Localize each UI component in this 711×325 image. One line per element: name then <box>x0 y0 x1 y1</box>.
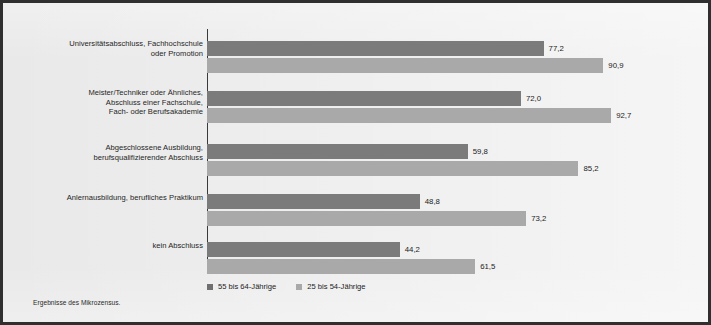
category-label-3: Anlernausbildung, berufliches Praktikum <box>13 193 203 203</box>
bar-series-55-64-cat-1 <box>207 91 521 106</box>
bar-series-55-64-cat-4 <box>207 242 400 257</box>
category-label-line: Fach- oder Berufsakademie <box>13 107 203 117</box>
bar-value-label: 72,0 <box>526 94 541 104</box>
bar-series-25-54-cat-3 <box>207 211 526 226</box>
bar-series-55-64-cat-2 <box>207 144 468 159</box>
bar-value-label: 90,9 <box>608 61 623 71</box>
bar-value-label: 77,2 <box>549 44 564 54</box>
bar-series-25-54-cat-1 <box>207 108 611 123</box>
category-label-line: Abschluss einer Fachschule, <box>13 98 203 108</box>
bar-series-25-54-cat-2 <box>207 161 578 176</box>
legend-label: 55 bis 64-Jährige <box>218 282 276 291</box>
legend-swatch-icon <box>207 284 213 290</box>
category-label-4: kein Abschluss <box>13 241 203 251</box>
bar-series-25-54-cat-0 <box>207 58 603 73</box>
chart-figure: Universitätsabschluss, Fachhochschule od… <box>0 0 711 325</box>
bar-series-25-54-cat-4 <box>207 259 475 274</box>
category-label-2: Abgeschlossene Ausbildung, berufsqualifi… <box>13 143 203 162</box>
bar-value-label: 44,2 <box>405 245 420 255</box>
source-note: Ergebnisse des Mikrozensus. <box>33 299 120 306</box>
bar-series-55-64-cat-3 <box>207 194 420 209</box>
plot-area: Universitätsabschluss, Fachhochschule od… <box>3 3 708 322</box>
category-label-1: Meister/Techniker oder Ähnliches, Abschl… <box>13 88 203 117</box>
bar-value-label: 85,2 <box>583 164 598 174</box>
bar-value-label: 48,8 <box>425 197 440 207</box>
category-label-line: oder Promotion <box>13 49 203 59</box>
bar-value-label: 61,5 <box>480 262 495 272</box>
category-label-line: Abgeschlossene Ausbildung, <box>13 143 203 153</box>
category-label-line: Universitätsabschluss, Fachhochschule <box>13 39 203 49</box>
category-label-line: kein Abschluss <box>13 241 203 251</box>
category-label-line: Anlernausbildung, berufliches Praktikum <box>13 193 203 203</box>
legend-swatch-icon <box>296 284 302 290</box>
legend-label: 25 bis 54-Jährige <box>307 282 365 291</box>
bar-value-label: 73,2 <box>531 214 546 224</box>
bar-value-label: 92,7 <box>616 111 631 121</box>
chart-legend: 55 bis 64-Jährige 25 bis 54-Jährige <box>207 282 607 291</box>
bar-value-label: 59,8 <box>473 147 488 157</box>
legend-item-55-64[interactable]: 55 bis 64-Jährige <box>207 282 276 291</box>
category-label-0: Universitätsabschluss, Fachhochschule od… <box>13 39 203 58</box>
category-label-line: berufsqualifizierender Abschluss <box>13 153 203 163</box>
legend-item-25-54[interactable]: 25 bis 54-Jährige <box>296 282 365 291</box>
category-label-line: Meister/Techniker oder Ähnliches, <box>13 88 203 98</box>
bar-series-55-64-cat-0 <box>207 41 544 56</box>
